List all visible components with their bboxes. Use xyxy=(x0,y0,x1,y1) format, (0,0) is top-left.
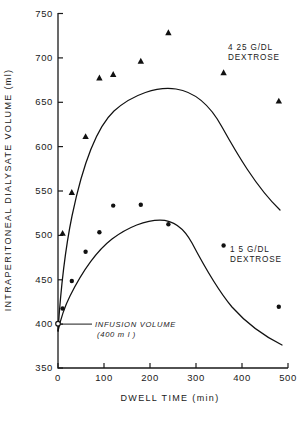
data-point xyxy=(221,243,225,247)
y-tick-label: 400 xyxy=(35,318,53,329)
infusion-volume-annotation: INFUSION VOLUME (400 m l ) xyxy=(56,320,176,339)
y-tick-label: 650 xyxy=(35,96,53,107)
x-tick-label: 500 xyxy=(279,372,297,383)
data-point xyxy=(166,222,170,226)
axis-lines xyxy=(58,13,288,368)
series-label-dextrose-425: 4 25 G/DL DEXTROSE xyxy=(228,43,280,62)
x-tick-label: 0 xyxy=(55,372,61,383)
data-point xyxy=(83,250,87,254)
y-axis-title: INTRAPERITONEAL DIALYSATE VOLUME (ml) xyxy=(3,69,13,312)
data-point xyxy=(110,71,116,77)
infusion-volume-marker xyxy=(56,321,61,326)
y-tick-label: 500 xyxy=(35,229,53,240)
x-axis-title: DWELL TIME (min) xyxy=(120,393,219,403)
data-point xyxy=(60,306,64,310)
x-axis-ticks xyxy=(58,363,288,368)
data-point xyxy=(277,305,281,309)
x-tick-label: 200 xyxy=(141,372,159,383)
y-tick-label: 350 xyxy=(35,362,53,373)
x-tick-label: 300 xyxy=(187,372,205,383)
data-point xyxy=(138,58,144,64)
chart-figure: 750 700 650 600 550 500 450 400 350 0 10… xyxy=(0,0,303,421)
series-label-line-2: DEXTROSE xyxy=(228,53,280,62)
data-point xyxy=(276,98,282,104)
curve-dextrose-425 xyxy=(58,88,280,331)
data-point xyxy=(165,29,171,35)
annotation-line-1: INFUSION VOLUME xyxy=(95,320,176,329)
x-tick-label: 400 xyxy=(233,372,251,383)
series-label-line-1: 4 25 G/DL xyxy=(228,43,273,52)
chart-plot-area: 750 700 650 600 550 500 450 400 350 0 10… xyxy=(0,0,303,421)
data-point xyxy=(59,230,65,236)
y-tick-label: 600 xyxy=(35,141,53,152)
y-tick-label: 750 xyxy=(35,8,53,19)
y-axis-tick-labels: 750 700 650 600 550 500 450 400 350 xyxy=(35,8,53,374)
series-label-line-1: 1 5 G/DL xyxy=(230,245,270,254)
data-point xyxy=(220,69,226,75)
y-tick-label: 450 xyxy=(35,274,53,285)
x-tick-label: 100 xyxy=(95,372,113,383)
annotation-line-2: (400 m l ) xyxy=(97,330,136,339)
data-point xyxy=(70,279,74,283)
data-point xyxy=(96,75,102,81)
data-point xyxy=(82,133,88,139)
series-label-line-2: DEXTROSE xyxy=(230,255,282,264)
data-point xyxy=(111,203,115,207)
data-point xyxy=(69,189,75,195)
data-point xyxy=(139,203,143,207)
data-point xyxy=(97,230,101,234)
series-label-dextrose-15: 1 5 G/DL DEXTROSE xyxy=(230,245,282,264)
x-axis-tick-labels: 0 100 200 300 400 500 xyxy=(55,372,297,383)
y-tick-label: 700 xyxy=(35,52,53,63)
y-tick-label: 550 xyxy=(35,185,53,196)
